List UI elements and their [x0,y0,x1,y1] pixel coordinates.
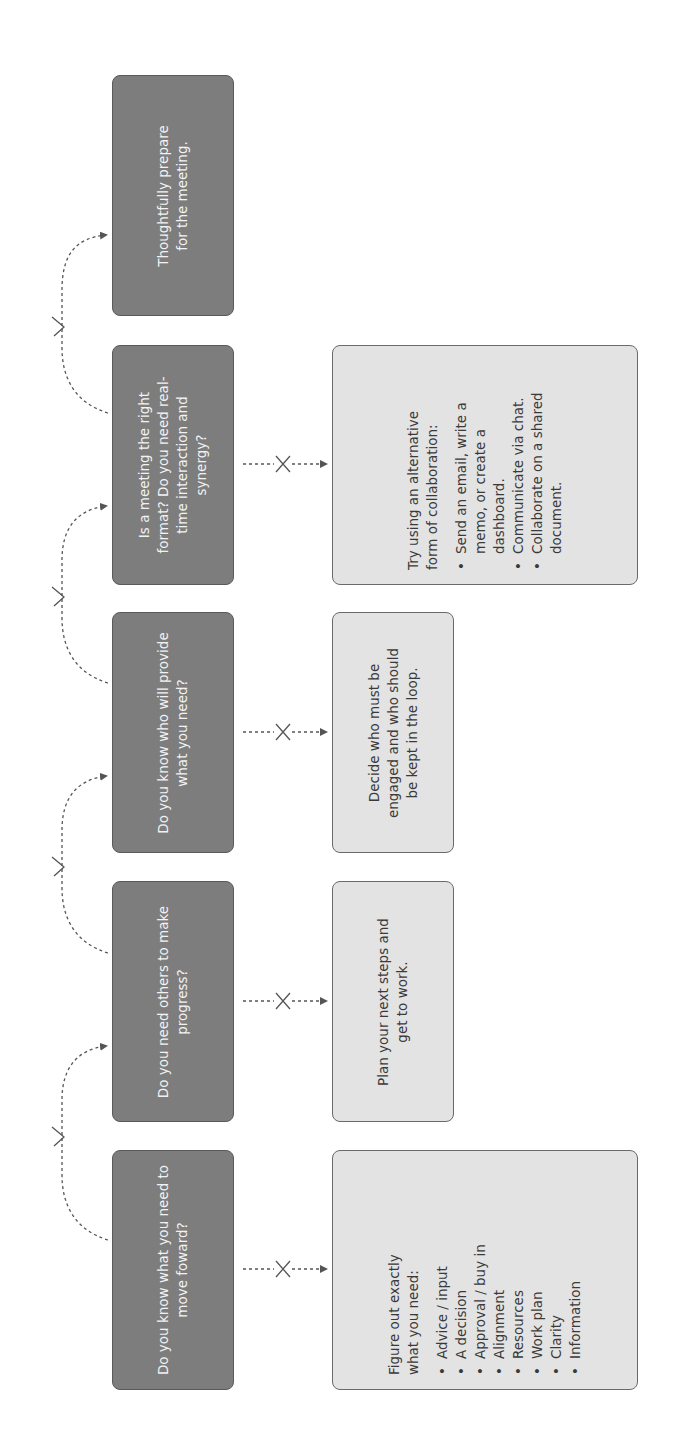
x-icon [276,456,290,472]
question-box-1: Do you know what you need to move foward… [112,1150,234,1390]
answer-box-2: Plan your next steps and get to work. [332,881,454,1122]
list-item: A decision [452,1165,471,1375]
x-icon [276,993,290,1009]
answer-box-4: Try using an alternative form of collabo… [332,345,638,585]
yes-connector-4-5 [62,235,108,413]
answer-lead: Figure out exactly what you need: [385,1245,423,1375]
list-item: Clarity [547,1165,566,1375]
answer-box-1: Figure out exactly what you need: Advice… [332,1150,638,1390]
list-item: Collaborate on a shared document. [528,360,566,570]
alternatives-list: Send an email, write a memo, or create a… [452,360,566,570]
question-box-3: Do you know who will provide what you ne… [112,612,234,853]
question-text: Do you know who will provide what you ne… [155,632,190,833]
yes-connector-2-3 [62,776,108,953]
answer-lead: Decide who must be engaged and who shoul… [366,648,420,818]
x-icon [276,1261,290,1277]
list-item: Send an email, write a memo, or create a… [452,360,509,570]
answer-box-3: Decide who must be engaged and who shoul… [332,612,454,853]
list-item: Approval / buy in [471,1165,490,1375]
list-item: Advice / input [433,1165,452,1375]
question-text: Is a meeting the right format? Do you ne… [136,376,209,553]
question-text: Do you know what you need to move foward… [155,1165,190,1375]
list-item: Information [566,1165,585,1375]
yes-connector-3-4 [62,506,108,683]
needs-list: Advice / input A decision Approval / buy… [433,1165,585,1375]
question-text: Do you need others to make progress? [155,905,190,1097]
answer-lead: Plan your next steps and get to work. [375,918,410,1086]
list-item: Communicate via chat. [509,360,528,570]
answer-lead: Try using an alternative form of collabo… [404,390,442,570]
yes-connector-1-2 [62,1046,108,1240]
list-item: Work plan [528,1165,547,1375]
list-item: Resources [509,1165,528,1375]
final-step-text: Thoughtfully prepare for the meeting. [155,125,190,267]
check-icon [52,1127,64,1146]
question-box-2: Do you need others to make progress? [112,881,234,1122]
final-step-box: Thoughtfully prepare for the meeting. [112,75,234,316]
question-box-4: Is a meeting the right format? Do you ne… [112,345,234,585]
x-icon [276,724,290,740]
list-item: Alignment [490,1165,509,1375]
